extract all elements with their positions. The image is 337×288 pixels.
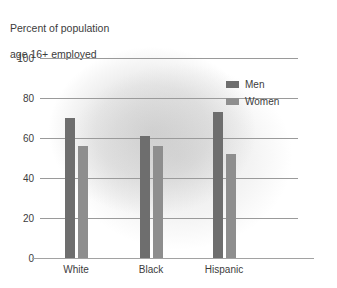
legend-item-women: Women bbox=[226, 94, 279, 108]
y-axis-tick-80: 80 bbox=[23, 93, 34, 104]
chart-legend: Men Women bbox=[226, 77, 279, 111]
x-axis-label-hispanic: Hispanic bbox=[205, 264, 243, 275]
y-axis-tick-20: 20 bbox=[23, 213, 34, 224]
bar-black-women bbox=[153, 146, 163, 258]
legend-swatch-men-icon bbox=[226, 81, 239, 88]
gridline-60: 60 bbox=[40, 138, 298, 139]
bar-white-men bbox=[65, 118, 75, 258]
legend-item-men: Men bbox=[226, 77, 279, 91]
y-axis-tick-60: 60 bbox=[23, 133, 34, 144]
y-axis-tick-100: 100 bbox=[17, 53, 34, 64]
chart-title-line-1: Percent of population bbox=[10, 22, 109, 35]
legend-swatch-women-icon bbox=[226, 98, 239, 105]
bar-white-women bbox=[78, 146, 88, 258]
bar-black-men bbox=[140, 136, 150, 258]
bar-hispanic-women bbox=[226, 154, 236, 258]
bar-hispanic-men bbox=[213, 112, 223, 258]
x-axis-label-white: White bbox=[63, 264, 89, 275]
legend-label-women: Women bbox=[245, 96, 279, 107]
baseline-extension bbox=[32, 258, 314, 259]
x-axis-label-black: Black bbox=[139, 264, 163, 275]
chart-container: Percent of population age 16+ employed 0… bbox=[0, 0, 337, 288]
legend-label-men: Men bbox=[245, 79, 264, 90]
gridline-100: 100 bbox=[40, 58, 298, 59]
y-axis-tick-40: 40 bbox=[23, 173, 34, 184]
